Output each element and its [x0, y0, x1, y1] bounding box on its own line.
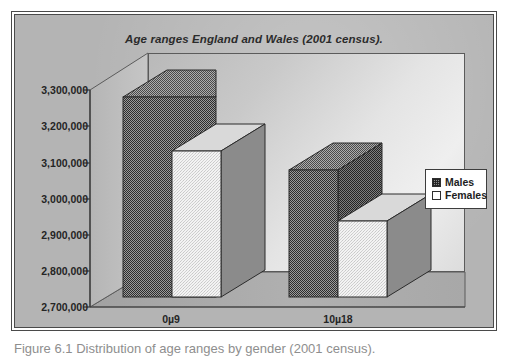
- x-tick-label: 10µ18: [323, 313, 352, 325]
- chart-panel: Age ranges England and Wales (2001 censu…: [14, 14, 494, 328]
- legend-label-males: Males: [445, 176, 474, 188]
- males-swatch-icon: [432, 178, 441, 187]
- legend-item-females: Females: [432, 189, 480, 201]
- chart-legend: Males Females: [425, 169, 487, 209]
- figure-frame: Age ranges England and Wales (2001 censu…: [11, 11, 497, 331]
- figure-caption-text: Figure 6.1 Distribution of age ranges by…: [14, 342, 484, 356]
- legend-label-females: Females: [445, 189, 487, 201]
- chart-title: Age ranges England and Wales (2001 censu…: [15, 33, 493, 45]
- figure-caption-partial: Figure 6.1 Distribution of age ranges by…: [14, 342, 484, 356]
- legend-item-males: Males: [432, 176, 480, 188]
- females-swatch-icon: [432, 191, 441, 200]
- x-axis-labels: 0µ9 10µ18: [15, 15, 494, 328]
- x-tick-label: 0µ9: [162, 313, 180, 325]
